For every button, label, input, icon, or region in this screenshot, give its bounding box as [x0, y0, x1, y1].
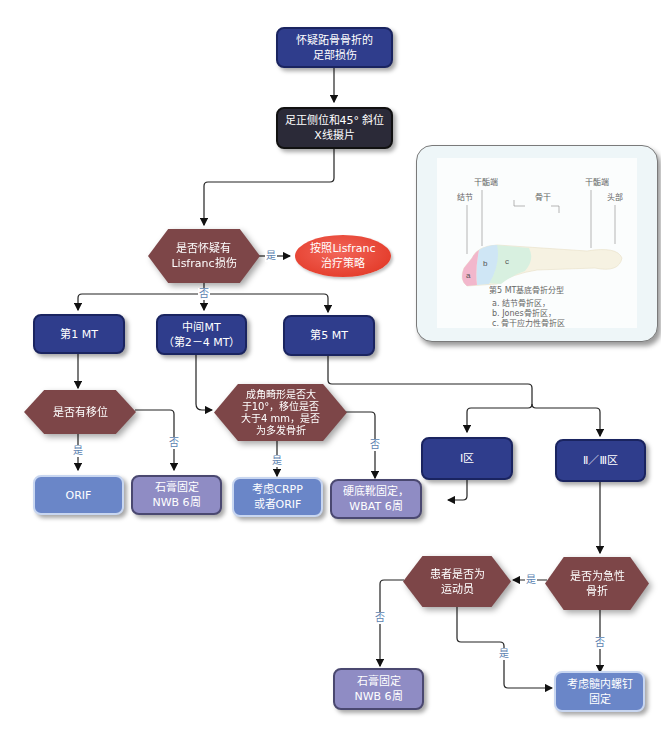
lisfranc-question-decision: 是否怀疑有 Lisfranc损伤: [148, 229, 260, 283]
acute-question-decision: 是否为急性 骨折: [545, 557, 649, 610]
angulation-question-decision: 成角畸形是否大 于10°，移位是否 大于4 mm，是否 为多发骨折: [214, 384, 347, 441]
zone1-node: Ⅰ区: [421, 437, 513, 480]
edge-label-athlete-no: 否: [374, 612, 386, 624]
caption-item-c: c. 骨干应力性骨折区: [492, 319, 565, 329]
hard-shoe-node: 硬底靴固定， WBAT 6周: [330, 479, 422, 519]
zone-a-letter: a: [466, 271, 471, 280]
lisfranc-question-text: 是否怀疑有 Lisfranc损伤: [148, 229, 260, 283]
crpp-orif-node: 考虑CRPP 或者ORIF: [232, 477, 323, 517]
edge-label-displaced-no: 否: [168, 437, 180, 449]
athlete-question-decision: 患者是否为 运动员: [403, 556, 511, 607]
edge-label-angulation-yes: 是: [271, 455, 283, 467]
edge-label-displaced-yes: 是: [72, 445, 84, 457]
angulation-question-text: 成角畸形是否大 于10°，移位是否 大于4 mm，是否 为多发骨折: [214, 384, 347, 441]
mt1-node: 第1 MT: [33, 314, 125, 354]
edge-label-athlete-yes: 是: [498, 648, 510, 660]
lisfranc-strategy-node: 按照Lisfranc 治疗策略: [295, 235, 391, 277]
cast-nwb-node-1: 石膏固定 NWB 6周: [131, 475, 222, 515]
edge-label-acute-no: 否: [594, 637, 606, 649]
caption-item-b: b. Jones骨折区，: [492, 309, 556, 319]
caption-item-a: a. 结节骨折区，: [492, 299, 550, 309]
anatomy-panel: 结节 干骺端 骨干 干骺端 头部 a b c 第5 MT基底骨折分型 a. 结节…: [416, 145, 658, 342]
cast-nwb-node-2: 石膏固定 NWB 6周: [333, 668, 424, 710]
edge-label-angulation-no: 否: [369, 439, 381, 451]
displaced-question-text: 是否有移位: [24, 390, 136, 434]
edge-label-acute-yes: 是: [525, 574, 537, 586]
edge-label-lisfranc-yes: 是: [265, 250, 277, 262]
zone23-node: Ⅱ／Ⅲ区: [555, 439, 646, 482]
orif-node: ORIF: [33, 475, 124, 515]
xray-node: 足正侧位和45° 斜位 X线摄片: [276, 107, 393, 149]
mt5-node: 第5 MT: [283, 315, 375, 356]
athlete-question-text: 患者是否为 运动员: [403, 556, 511, 607]
edge-label-lisfranc-no: 否: [198, 288, 210, 300]
anatomy-panel-inner: 结节 干骺端 骨干 干骺端 头部 a b c 第5 MT基底骨折分型 a. 结节…: [437, 158, 637, 328]
mt-middle-node: 中间MT （第2－4 MT）: [156, 314, 247, 355]
displaced-question-decision: 是否有移位: [24, 390, 136, 434]
caption-title: 第5 MT基底骨折分型: [489, 286, 564, 296]
zone-c-letter: c: [505, 257, 509, 266]
start-node: 怀疑跖骨骨折的 足部损伤: [276, 27, 393, 68]
screw-fixation-node: 考虑髓内螺钉 固定: [554, 671, 645, 712]
zone-b-letter: b: [483, 259, 488, 268]
acute-question-text: 是否为急性 骨折: [545, 557, 649, 610]
